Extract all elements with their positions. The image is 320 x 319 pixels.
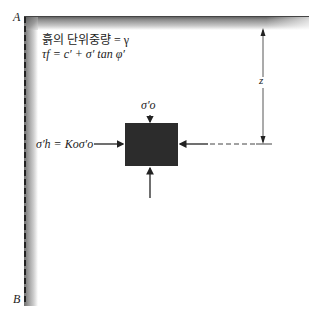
depth-arrow-top-icon — [261, 28, 266, 36]
stress-arrows — [0, 0, 320, 319]
depth-arrow-bottom-icon — [261, 136, 266, 144]
